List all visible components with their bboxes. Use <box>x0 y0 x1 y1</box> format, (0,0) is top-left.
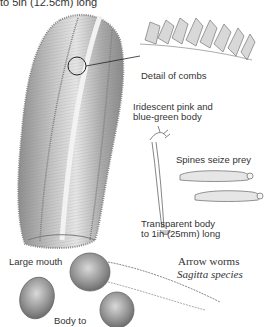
label-large-mouth: Large mouth <box>9 257 62 268</box>
arrow-worm-bodies <box>180 171 263 202</box>
arrow-worms-title: Arrow worms <box>178 255 239 267</box>
label-transparent-2: to 1in (25mm) long <box>141 229 220 240</box>
label-detail-of-combs: Detail of combs <box>141 71 206 82</box>
comb-jelly-body <box>18 15 140 248</box>
top-caption: to 5in (12.5cm) long <box>0 0 97 8</box>
arrow-worms-species: Sagitta species <box>177 268 243 280</box>
label-spines: Spines seize prey <box>176 155 251 166</box>
label-body-color-2: blue-green body <box>133 112 202 123</box>
label-body-to: Body to <box>54 316 86 327</box>
comb-row-detail <box>140 18 255 60</box>
